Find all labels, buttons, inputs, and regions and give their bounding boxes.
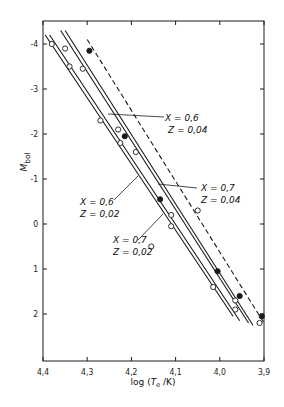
- y-tick-label: 1: [33, 264, 38, 274]
- open-circle-point: [233, 307, 238, 312]
- filled-circle-point: [122, 134, 127, 139]
- open-circle-point: [169, 212, 174, 217]
- y-tick-label: 2: [33, 309, 38, 319]
- annotation-x07-z002-x: X = 0,7: [112, 235, 147, 245]
- hr-diagram-chart: 4,44,34,24,14,03,9-4-3-2-1012 X = 0,6 Z …: [0, 0, 284, 407]
- svg-text:Mbol: Mbol: [19, 152, 32, 171]
- open-circle-point: [133, 149, 138, 154]
- x-tick-label: 4,2: [125, 367, 137, 377]
- y-tick-label: -4: [30, 39, 38, 49]
- open-circle-point: [195, 208, 200, 213]
- model-lines: [45, 31, 264, 326]
- series-line: [61, 31, 249, 324]
- open-circle-point: [98, 118, 103, 123]
- open-circle-point: [169, 224, 174, 229]
- annotation-x06-z004-z: Z = 0,04: [167, 125, 208, 135]
- filled-circle-point: [259, 314, 264, 319]
- y-axis-label-sub: bol: [23, 152, 32, 163]
- open-circle-point: [211, 284, 216, 289]
- annotation-x07-z002-z: Z = 0,02: [112, 247, 153, 257]
- open-circle-point: [67, 64, 72, 69]
- filled-circle-point: [158, 197, 163, 202]
- series-line: [87, 40, 264, 324]
- x-tick-label: 3,9: [258, 367, 270, 377]
- x-axis-label-pre: log (: [131, 377, 151, 387]
- annotation-x06-z004-x: X = 0,6: [164, 113, 199, 123]
- series-line: [45, 35, 233, 316]
- x-tick-label: 4,4: [37, 367, 49, 377]
- filled-circle-point: [237, 293, 242, 298]
- open-circle-point: [116, 127, 121, 132]
- y-tick-label: -2: [30, 129, 38, 139]
- y-axis-label: Mbol: [19, 152, 32, 171]
- series-line: [50, 35, 240, 321]
- annotation-x06-z002-x: X = 0,6: [79, 197, 114, 207]
- x-tick-label: 4,1: [170, 367, 182, 377]
- filled-circle-point: [215, 269, 220, 274]
- x-axis-label-post: /K): [160, 377, 175, 387]
- open-circle-point: [49, 41, 54, 46]
- open-circle-point: [80, 66, 85, 71]
- x-axis-label: log (Te /K): [131, 377, 176, 389]
- open-circle-point: [118, 140, 123, 145]
- y-tick-label: -1: [30, 174, 38, 184]
- x-tick-label: 4,0: [214, 367, 226, 377]
- y-tick-label: 0: [33, 219, 38, 229]
- x-tick-label: 4,3: [81, 367, 93, 377]
- annotation-x06-z002-z: Z = 0,02: [79, 209, 120, 219]
- open-circle-point: [233, 298, 238, 303]
- filled-circle-point: [87, 48, 92, 53]
- annotation-x07-z004-z: Z = 0,04: [200, 195, 241, 205]
- annotation-x07-z004-x: X = 0,7: [200, 183, 235, 193]
- open-circle-point: [257, 320, 262, 325]
- open-circle-point: [63, 46, 68, 51]
- series-line: [65, 31, 253, 326]
- y-tick-label: -3: [30, 84, 38, 94]
